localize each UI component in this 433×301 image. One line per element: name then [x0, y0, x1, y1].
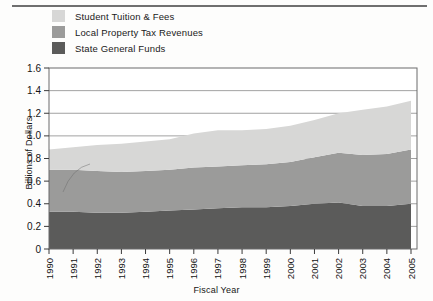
- y-axis-tick-label: 1.6: [27, 63, 41, 74]
- x-axis-tick-label: 2004: [381, 258, 392, 279]
- y-axis-tick-label: 1.0: [27, 130, 41, 141]
- x-axis-tick-label: 2001: [309, 258, 320, 279]
- x-axis-tick-label: 1995: [164, 258, 175, 279]
- x-axis-tick-label: 1998: [237, 258, 248, 279]
- y-axis-tick-label: 1.4: [27, 85, 41, 96]
- x-axis-tick-label: 2003: [357, 258, 368, 279]
- x-axis-tick-label: 2002: [333, 258, 344, 279]
- y-axis-tick-label: 1.2: [27, 108, 41, 119]
- y-axis-tick-label: 0.6: [27, 176, 41, 187]
- x-axis-tick-label: 1992: [92, 258, 103, 279]
- x-axis-tick-label: 1999: [261, 258, 272, 279]
- x-axis-tick-label: 1994: [140, 258, 151, 279]
- y-axis-tick-label: 0.2: [27, 221, 41, 232]
- y-axis-tick-label: 0.8: [27, 153, 41, 164]
- chart-page: Student Tuition & Fees Local Property Ta…: [0, 0, 433, 301]
- x-axis-tick-label: 2005: [406, 258, 417, 279]
- x-axis-tick-label: 1997: [212, 258, 223, 279]
- stacked-area-chart: 00.20.40.60.81.01.21.41.6199019911992199…: [0, 0, 433, 301]
- x-axis-tick-label: 2000: [285, 258, 296, 279]
- x-axis-tick-label: 1993: [116, 258, 127, 279]
- x-axis-tick-label: 1996: [188, 258, 199, 279]
- y-axis-tick-label: 0.4: [27, 198, 41, 209]
- x-axis-tick-label: 1990: [44, 258, 55, 279]
- x-axis-tick-label: 1991: [68, 258, 79, 279]
- y-axis-tick-label: 0: [35, 244, 41, 255]
